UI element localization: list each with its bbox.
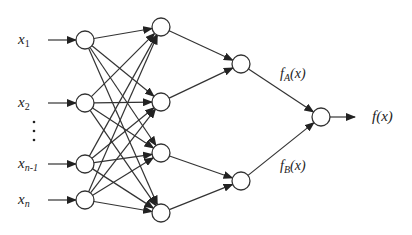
hidden2-node <box>232 172 250 190</box>
ellipsis-dot <box>33 121 36 124</box>
labels: x1x2xn-1xnfA(x)fB(x)f(x) <box>17 31 393 209</box>
network-nodes <box>76 18 330 222</box>
hidden1-node <box>152 93 170 111</box>
edge-hidden1-hidden2 <box>169 68 233 98</box>
edge-input-hidden1 <box>94 29 152 39</box>
edge-hidden1-hidden2 <box>169 31 233 60</box>
edge-input-hidden1 <box>94 102 152 103</box>
edge-hidden1-hidden2 <box>169 156 232 178</box>
edge-input-hidden1 <box>92 46 154 97</box>
input-label-x2: x2 <box>17 94 30 112</box>
hidden1-node <box>152 18 170 36</box>
hidden1-node <box>152 204 170 222</box>
fA-label: fA(x) <box>280 66 306 83</box>
input-label-xn-1: xn-1 <box>17 155 38 173</box>
edge-hidden1-hidden2 <box>169 184 232 209</box>
input-node <box>76 155 94 173</box>
input-label-x1: x1 <box>17 31 30 49</box>
connection-edges <box>48 29 355 212</box>
neural-network-diagram: x1x2xn-1xnfA(x)fB(x)f(x) <box>0 0 412 235</box>
output-node <box>312 108 330 126</box>
edge-input-hidden1 <box>91 33 154 96</box>
hidden1-node <box>152 144 170 162</box>
edge-input-hidden1 <box>94 202 152 212</box>
ellipsis-dot <box>33 139 36 142</box>
ellipsis-dot <box>33 130 36 133</box>
input-label-xn: xn <box>17 191 30 209</box>
hidden2-node <box>232 55 250 73</box>
input-node <box>76 94 94 112</box>
input-node <box>76 191 94 209</box>
edge-input-hidden1 <box>89 35 156 156</box>
fB-label: fB(x) <box>280 158 306 175</box>
input-node <box>76 31 94 49</box>
output-label: f(x) <box>372 108 393 125</box>
